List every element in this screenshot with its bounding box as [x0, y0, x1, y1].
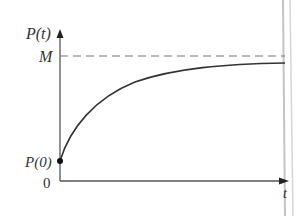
origin-label: 0	[43, 175, 51, 191]
y-axis-label: P(t)	[25, 25, 51, 43]
initial-value-label: P(0)	[24, 154, 52, 171]
asymptote-label: M	[38, 48, 54, 65]
x-axis-label: t	[283, 186, 288, 201]
logistic-growth-chart: P(t) M P(0) 0 t	[0, 0, 307, 216]
growth-curve	[60, 63, 285, 161]
y-axis-arrow-icon	[57, 29, 64, 38]
initial-value-dot	[57, 158, 63, 164]
page-edge-line	[290, 0, 293, 216]
page-edge-line	[283, 0, 285, 216]
